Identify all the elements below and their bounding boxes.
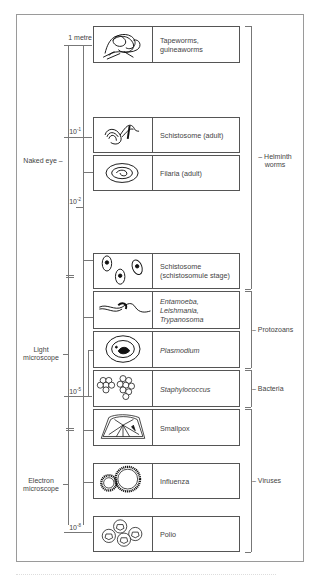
bracket-end xyxy=(245,407,251,408)
group-bracket-helminth xyxy=(251,26,252,289)
organism-row-schistosome-adult: Schistosome (adult) xyxy=(93,117,240,153)
organism-row-tapeworms: Tapeworms, guineaworms xyxy=(93,26,240,63)
scale-label-10-2: 10-2 xyxy=(62,197,81,205)
influenza-icon xyxy=(94,464,153,498)
scale-label-10-5: 10-5 xyxy=(62,387,81,395)
scale-label-1m: 1 metre xyxy=(62,34,92,41)
scale-label-10-8: 10-8 xyxy=(62,523,81,531)
organism-label: Schistosome (adult) xyxy=(160,131,235,140)
row-connector xyxy=(83,482,93,483)
organism-row-staphylococcus: Staphylococcus xyxy=(93,370,240,407)
organism-label: Influenza xyxy=(160,477,235,486)
scale-sub-axis xyxy=(88,350,89,397)
bracket-end xyxy=(245,409,251,410)
caption-cut-off xyxy=(16,574,276,580)
group-label-protozoans: – Protozoans xyxy=(252,326,293,334)
group-label-helminth-worms: – Helminth worms xyxy=(253,153,297,169)
organism-label: Filaria (adult) xyxy=(160,169,235,178)
row-connector xyxy=(83,260,93,261)
scale-tick xyxy=(64,532,92,533)
visibility-axis xyxy=(68,45,69,525)
polio-icon xyxy=(94,517,153,551)
plasmodium-icon xyxy=(94,332,153,367)
organism-label: Polio xyxy=(160,530,235,539)
bracket-end xyxy=(245,291,251,292)
organism-label: Plasmodium xyxy=(160,345,235,354)
range-label-electron-microscope: Electron microscope xyxy=(18,477,64,493)
trypanosoma-icon xyxy=(94,292,153,328)
organism-row-polio: Polio xyxy=(93,516,240,552)
scale-tick xyxy=(64,137,92,138)
organism-label: Entamoeba, Leishmania, Trypanosoma xyxy=(160,297,235,324)
scale-tick xyxy=(76,207,83,208)
range-tick xyxy=(63,354,68,355)
range-divider xyxy=(66,277,74,278)
bracket-end xyxy=(245,26,251,27)
range-divider xyxy=(66,275,74,276)
schistosome-adult-icon xyxy=(94,118,153,152)
organism-label: Tapeworms, guineaworms xyxy=(160,36,235,54)
row-connector xyxy=(83,430,93,431)
bracket-end xyxy=(245,289,251,290)
schistosomule-icon xyxy=(94,254,153,288)
range-divider xyxy=(66,430,74,431)
group-label-bacteria: – Bacteria xyxy=(252,385,284,393)
organism-label: Staphylococcus xyxy=(160,384,235,393)
range-label-naked-eye: Naked eye – xyxy=(20,157,66,165)
smallpox-icon xyxy=(94,410,153,445)
tapeworm-icon xyxy=(94,27,153,62)
group-label-viruses: – Viruses xyxy=(252,477,281,485)
range-label-light-microscope: Light microscope xyxy=(18,346,64,362)
scale-tick xyxy=(64,45,92,46)
row-connector xyxy=(83,317,93,318)
bracket-end xyxy=(245,368,251,369)
filaria-icon xyxy=(94,156,153,190)
organism-row-plasmodium: Plasmodium xyxy=(93,331,240,368)
bracket-end xyxy=(245,552,251,553)
range-tick xyxy=(63,484,68,485)
organism-label: Smallpox xyxy=(160,423,235,432)
bracket-end xyxy=(245,370,251,371)
row-connector xyxy=(83,172,93,173)
organism-row-influenza: Influenza xyxy=(93,463,240,499)
organism-label: Schistosome (schistosomule stage) xyxy=(160,262,235,280)
range-divider xyxy=(66,428,74,429)
scale-label-10-1: 10-1 xyxy=(62,127,81,135)
organism-row-smallpox: Smallpox xyxy=(93,409,240,446)
staphylococcus-icon xyxy=(94,371,153,406)
organism-row-entamoeba: Entamoeba, Leishmania, Trypanosoma xyxy=(93,291,240,329)
organism-row-filaria: Filaria (adult) xyxy=(93,155,240,191)
organism-row-schistosomule: Schistosome (schistosomule stage) xyxy=(93,253,240,289)
scale-axis xyxy=(83,45,84,525)
